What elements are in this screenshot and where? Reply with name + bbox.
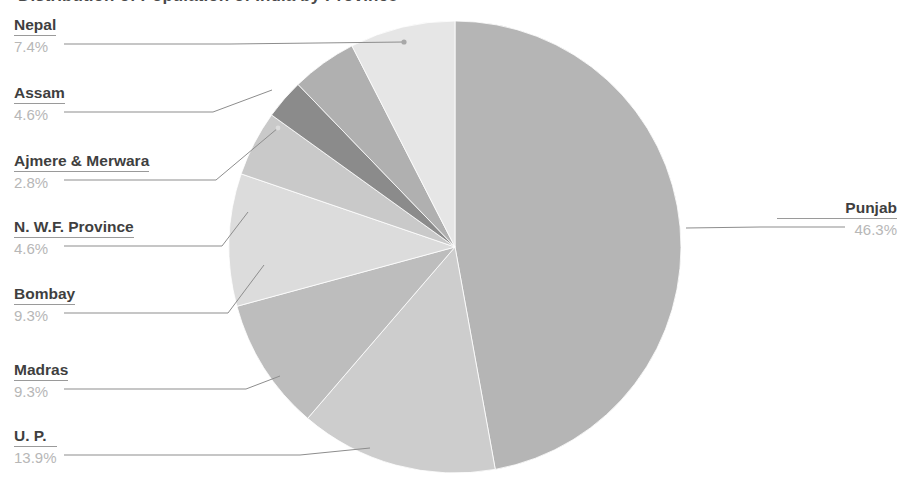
callout-label-up: U. P. — [14, 426, 57, 445]
leader-dot-ajmere — [276, 126, 281, 131]
callout-label-bombay: Bombay — [14, 284, 75, 303]
callout-rule-up — [14, 446, 57, 447]
callout-nepal: Nepal 7.4% — [14, 15, 56, 56]
callout-rule-nepal — [14, 35, 56, 36]
callout-label-nwf-province: N. W.F. Province — [14, 217, 134, 236]
callout-percent-punjab: 46.3% — [777, 220, 897, 239]
callout-percent-nwf-province: 4.6% — [14, 239, 134, 258]
callout-rule-nwf-province — [14, 237, 134, 238]
callout-label-ajmere-merwara: Ajmere & Merwara — [14, 151, 149, 170]
leader-line-up — [64, 448, 370, 455]
callout-percent-nepal: 7.4% — [14, 37, 56, 56]
pie-chart — [0, 0, 909, 498]
callout-percent-assam: 4.6% — [14, 105, 65, 124]
callout-percent-bombay: 9.3% — [14, 306, 75, 325]
callout-ajmere-merwara: Ajmere & Merwara 2.8% — [14, 151, 149, 192]
callout-bombay: Bombay 9.3% — [14, 284, 75, 325]
callout-label-nepal: Nepal — [14, 15, 56, 34]
callout-percent-ajmere-merwara: 2.8% — [14, 173, 149, 192]
pie-slices — [229, 21, 681, 473]
callout-percent-madras: 9.3% — [14, 382, 68, 401]
callout-punjab: Punjab 46.3% — [777, 198, 897, 239]
leader-line-madras — [64, 376, 280, 389]
callout-rule-assam — [14, 103, 65, 104]
callout-percent-up: 13.9% — [14, 448, 57, 467]
callout-rule-punjab — [777, 218, 897, 219]
callout-rule-madras — [14, 380, 68, 381]
callout-madras: Madras 9.3% — [14, 360, 68, 401]
leader-line-assam — [64, 90, 272, 112]
callout-label-punjab: Punjab — [777, 198, 897, 217]
chart-canvas: Distribution of Population of India by P… — [0, 0, 909, 498]
callout-assam: Assam 4.6% — [14, 83, 65, 124]
callout-nwf-province: N. W.F. Province 4.6% — [14, 217, 134, 258]
callout-label-assam: Assam — [14, 83, 65, 102]
leader-dot-nepal — [401, 39, 406, 44]
callout-rule-ajmere-merwara — [14, 171, 149, 172]
callout-label-madras: Madras — [14, 360, 68, 379]
callout-up: U. P. 13.9% — [14, 426, 57, 467]
callout-rule-bombay — [14, 304, 75, 305]
pie-slice-punjab[interactable] — [455, 21, 681, 469]
leader-line-nepal — [64, 42, 404, 44]
